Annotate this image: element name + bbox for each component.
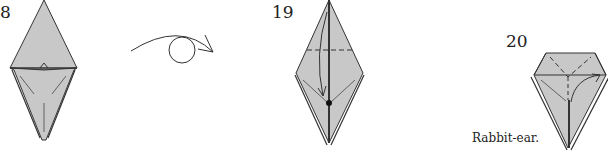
step-19-figure xyxy=(295,0,364,145)
step-20-figure xyxy=(531,53,608,150)
turn-over-icon xyxy=(131,35,213,63)
origami-diagram xyxy=(0,0,608,152)
step-8-figure xyxy=(10,0,77,140)
